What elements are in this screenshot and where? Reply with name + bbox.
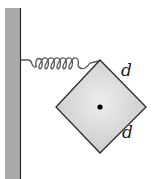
center-of-mass-dot bbox=[97, 104, 102, 109]
wall bbox=[5, 8, 21, 179]
side-label-lower: d bbox=[122, 124, 133, 141]
diagram-canvas bbox=[0, 0, 153, 179]
side-label-upper: d bbox=[121, 62, 132, 79]
spring bbox=[21, 58, 99, 69]
